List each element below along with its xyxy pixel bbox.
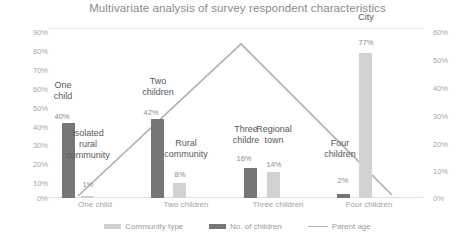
point-label-no-of-children-one-child: Onechild (45, 80, 81, 102)
value-label-community-type-city: 77% (351, 38, 381, 47)
value-label-no-of-children-four-children: 2% (328, 176, 358, 185)
point-label-community-type-city: City (344, 12, 388, 23)
point-label-no-of-children-two-children: Twochildren (130, 76, 186, 98)
x-axis-label-2: Three children (231, 200, 325, 209)
x-axis-label-1: Two children (139, 200, 233, 209)
y-axis-left-tick-0: 90% (2, 28, 48, 37)
y-axis-left-tick-4: 50% (2, 104, 48, 113)
legend-item-parent-age[interactable]: Parent age (308, 222, 371, 231)
y-axis-right: 60%50%40%30%20%10%0% (427, 0, 473, 246)
y-axis-right-tick-5: 10% (427, 167, 473, 176)
legend-swatch-community-icon (104, 224, 121, 229)
y-axis-right-tick-2: 40% (427, 84, 473, 93)
y-axis-right-tick-4: 20% (427, 140, 473, 149)
y-axis-left-tick-3: 60% (2, 85, 48, 94)
value-label-no-of-children-two-children: 42% (136, 108, 166, 117)
value-label-community-type-regional-town: 14% (259, 160, 289, 169)
value-label-no-of-children-three-children: 16% (229, 154, 259, 163)
chart-legend: Community typeNo. of childrenParent age (0, 222, 475, 231)
y-axis-right-tick-0: 60% (427, 28, 473, 37)
y-axis-left-tick-1: 80% (2, 47, 48, 56)
bar-community-type-city (359, 53, 372, 198)
point-label-no-of-children-four-children: Fourchildren (316, 138, 364, 160)
legend-label: Parent age (332, 222, 371, 231)
x-axis-label-3: Four children (322, 200, 416, 209)
bar-community-type-rural-community (173, 183, 186, 198)
y-axis-left-tick-2: 70% (2, 66, 48, 75)
legend-label: No. of children (230, 222, 282, 231)
legend-label: Community type (125, 222, 183, 231)
chart-title: Multivariate analysis of survey responde… (0, 2, 475, 14)
y-axis-left-tick-6: 30% (2, 141, 48, 150)
x-axis-label-0: One child (48, 200, 142, 209)
point-label-community-type-regional-town: Regionaltown (252, 124, 296, 146)
value-label-no-of-children-one-child: 40% (47, 112, 77, 121)
y-axis-left-tick-7: 20% (2, 160, 48, 169)
value-label-community-type-rural-community: 8% (165, 170, 195, 179)
legend-item-community-type[interactable]: Community type (104, 222, 183, 231)
bar-community-type-regional-town (267, 172, 280, 198)
x-axis-category-labels: One childTwo childrenThree childrenFour … (48, 200, 423, 214)
y-axis-left-tick-9: 0% (2, 194, 48, 203)
y-axis-left-tick-8: 10% (2, 179, 48, 188)
plot-area: 40%Onechild1%Isolatedruralcommunity42%Tw… (48, 28, 423, 198)
y-axis-right-tick-6: 0% (427, 194, 473, 203)
bar-no-of-children-four-children (337, 194, 350, 198)
legend-item-no-of-children[interactable]: No. of children (209, 222, 282, 231)
point-label-community-type-isolated-rural: Isolatedruralcommunity (60, 128, 116, 161)
value-label-community-type-isolated-rural: 1% (73, 180, 103, 189)
point-label-community-type-rural-community: Ruralcommunity (158, 138, 214, 160)
chart-container: Multivariate analysis of survey responde… (0, 0, 475, 246)
legend-swatch-line-icon (308, 226, 328, 227)
y-axis-right-tick-1: 50% (427, 56, 473, 65)
legend-swatch-children-icon (209, 224, 226, 229)
y-axis-right-tick-3: 30% (427, 112, 473, 121)
bar-community-type-isolated-rural (81, 196, 94, 198)
y-axis-left: 90%80%70%60%50%40%30%20%10%0% (2, 0, 48, 246)
y-axis-left-tick-5: 40% (2, 123, 48, 132)
bar-no-of-children-three-children (244, 168, 257, 198)
